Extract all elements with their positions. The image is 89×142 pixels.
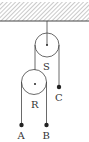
mass-c xyxy=(57,85,61,89)
label-r: R xyxy=(31,99,39,110)
pulley-diagram: S C R A B xyxy=(0,0,89,142)
ceiling xyxy=(0,2,89,21)
label-a: A xyxy=(17,130,26,141)
label-c: C xyxy=(55,92,63,103)
mass-a xyxy=(19,123,23,127)
pulley-r xyxy=(22,70,47,95)
label-b: B xyxy=(43,130,50,141)
label-s: S xyxy=(43,61,50,72)
mass-b xyxy=(44,123,48,127)
